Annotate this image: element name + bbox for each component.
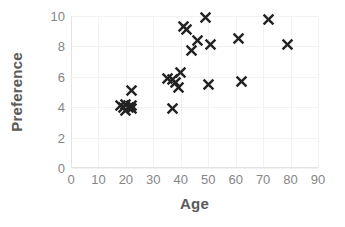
gridline-horizontal xyxy=(71,46,318,47)
data-point-marker xyxy=(281,38,294,51)
x-tick-label: 20 xyxy=(119,173,133,186)
x-tick-label: 30 xyxy=(146,173,160,186)
data-point-marker xyxy=(177,20,190,33)
gridline-vertical xyxy=(98,16,99,168)
y-axis-tick-labels: 0246810 xyxy=(34,16,65,168)
data-point-marker xyxy=(232,32,245,45)
gridline-vertical xyxy=(263,16,264,168)
gridline-vertical xyxy=(236,16,237,168)
gridline-vertical xyxy=(318,16,319,168)
gridline-horizontal xyxy=(71,168,318,169)
y-tick-label: 8 xyxy=(58,40,65,53)
gridline-vertical xyxy=(208,16,209,168)
data-point-marker xyxy=(199,11,212,24)
x-tick-label: 50 xyxy=(201,173,215,186)
x-tick-label: 10 xyxy=(91,173,105,186)
y-tick-label: 6 xyxy=(58,71,65,84)
gridline-horizontal xyxy=(71,16,318,17)
x-tick-label: 60 xyxy=(228,173,242,186)
gridline-vertical xyxy=(126,16,127,168)
gridline-horizontal xyxy=(71,107,318,108)
x-tick-label: 90 xyxy=(311,173,325,186)
x-tick-label: 70 xyxy=(256,173,270,186)
x-tick-label: 80 xyxy=(283,173,297,186)
data-point-marker xyxy=(166,102,179,115)
scatter-chart: 0246810 0102030405060708090 Age Preferen… xyxy=(0,0,345,227)
data-point-marker xyxy=(166,73,179,86)
plot-area xyxy=(71,16,318,168)
y-tick-label: 0 xyxy=(58,162,65,175)
gridline-horizontal xyxy=(71,77,318,78)
gridline-horizontal xyxy=(71,138,318,139)
data-point-marker xyxy=(191,34,204,47)
y-tick-label: 4 xyxy=(58,101,65,114)
data-point-marker xyxy=(204,38,217,51)
x-axis-tick-labels: 0102030405060708090 xyxy=(71,173,318,189)
y-axis-title-wrapper: Preference xyxy=(8,16,26,168)
x-axis-title: Age xyxy=(71,195,318,212)
y-axis-title: Preference xyxy=(8,16,26,168)
gridline-vertical xyxy=(181,16,182,168)
data-point-marker xyxy=(161,72,174,85)
gridline-vertical xyxy=(291,16,292,168)
y-axis-line xyxy=(71,16,72,168)
y-tick-label: 2 xyxy=(58,132,65,145)
x-axis-line xyxy=(71,167,318,168)
y-tick-label: 10 xyxy=(51,10,65,23)
x-tick-label: 0 xyxy=(67,173,74,186)
data-point-marker xyxy=(172,81,185,94)
gridline-vertical xyxy=(153,16,154,168)
x-tick-label: 40 xyxy=(174,173,188,186)
